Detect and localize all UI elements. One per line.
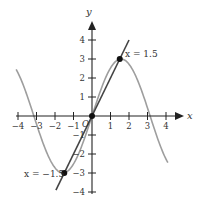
y-tick-label: −4 [72,187,85,197]
y-tick-label: −1 [72,130,85,140]
x-tick-label: 4 [163,121,168,131]
x-axis-label: x [187,110,193,121]
y-tick-label: 1 [80,92,85,102]
y-tick-label: −2 [72,149,85,159]
y-axis-label: y [85,6,92,17]
x-tick-label: 2 [126,121,131,131]
x-axis-arrow-icon [175,112,184,120]
x-tick-label: −3 [30,121,43,131]
origin-label: O [82,119,89,129]
x-tick-label: 1 [108,121,113,131]
origin-point [89,113,95,119]
y-tick-label: −3 [72,168,85,178]
y-tick-label: 4 [80,35,85,45]
x-tick-label: −2 [49,121,62,131]
y-tick-label: 2 [80,73,85,83]
point-label-pos: x = 1.5 [125,49,158,59]
x-tick-label: −4 [12,121,25,131]
point-label-neg: x = −1.5 [24,169,64,179]
y-axis-arrow-icon [88,21,96,30]
point-x-1.5 [117,56,123,62]
x-tick-label: 3 [145,121,150,131]
function-graph: −4−3−2−11234 −4−3−2−11234 x y O x = 1.5 … [0,0,200,207]
y-tick-label: 3 [80,54,85,64]
